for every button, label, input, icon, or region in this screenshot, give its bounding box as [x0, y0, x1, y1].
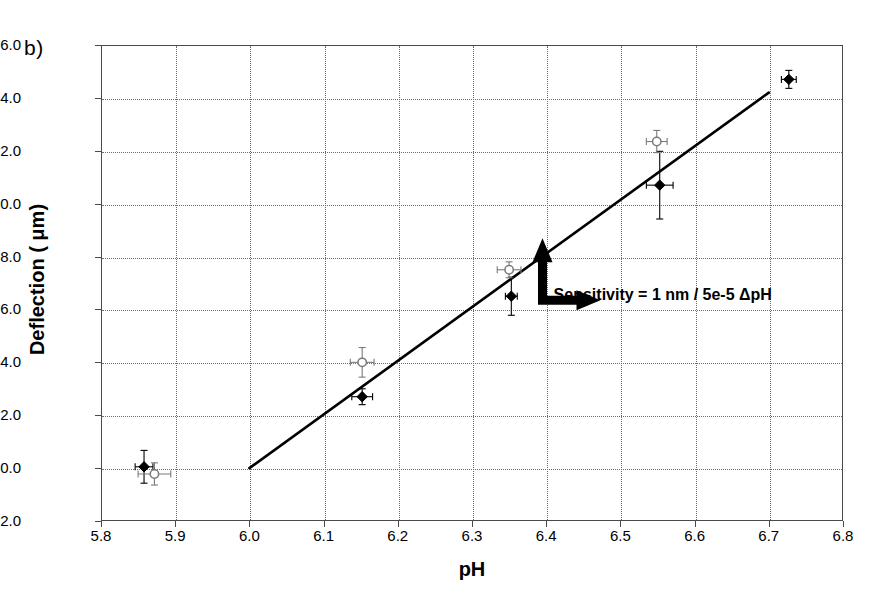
- sensitivity-annotation: Sensitivity = 1 nm / 5e-5 ΔpH: [554, 286, 772, 304]
- data-point-filled: [646, 151, 673, 219]
- data-points: [135, 70, 796, 485]
- figure-panel-b: b) Deflection ( μm) pH 5.85.96.06.16.26.…: [0, 0, 870, 613]
- data-point-filled: [135, 450, 153, 483]
- data-layer: [0, 0, 870, 613]
- fit-line: [249, 93, 768, 469]
- data-point-open: [350, 348, 374, 378]
- data-point-filled: [781, 70, 796, 88]
- data-point-open: [646, 130, 667, 152]
